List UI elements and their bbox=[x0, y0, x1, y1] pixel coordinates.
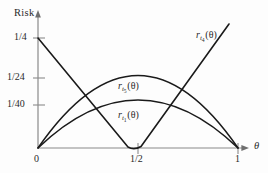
curve-label-r-t4-subscript: t4 bbox=[200, 34, 205, 42]
x-axis-arrowhead bbox=[241, 145, 249, 151]
y-axis-title: Risk bbox=[14, 8, 34, 19]
curve-label-r-t1: rt1 (θ) bbox=[118, 110, 139, 124]
y-tick-label-one-twentyfourth: 1/24 bbox=[7, 72, 25, 82]
x-axis-title: θ bbox=[254, 141, 259, 152]
y-tick-label-one-fortieth: 1/40 bbox=[7, 99, 25, 109]
y-tick-label-quarter: 1/4 bbox=[14, 32, 27, 42]
curve-label-r-t1-arg: (θ) bbox=[127, 109, 138, 120]
x-tick-label-zero: 0 bbox=[34, 154, 39, 164]
y-axis-arrowhead bbox=[35, 10, 41, 18]
risk-function-figure: Risk θ 1/4 1/24 1/40 0 1/2 1 rt4 (θ) rt5… bbox=[0, 0, 268, 173]
curve-label-r-t1-subscript: t1 bbox=[122, 114, 127, 122]
curve-label-r-t4: rt4 (θ) bbox=[196, 30, 217, 44]
curve-label-r-t5-subscript: t5 bbox=[122, 85, 127, 93]
x-tick-label-half: 1/2 bbox=[130, 154, 143, 164]
x-tick-label-one: 1 bbox=[235, 154, 240, 164]
curve-label-r-t5: rt5 (θ) bbox=[118, 81, 139, 95]
curve-label-r-t4-arg: (θ) bbox=[205, 29, 216, 40]
curve-r-t1 bbox=[38, 100, 238, 148]
curve-label-r-t5-arg: (θ) bbox=[127, 80, 138, 91]
